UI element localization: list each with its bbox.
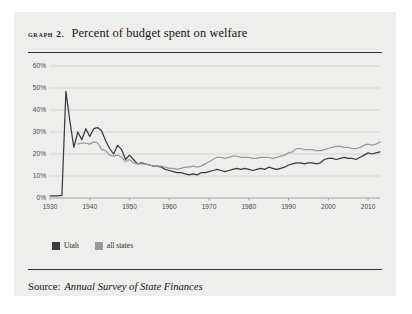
svg-text:1940: 1940 xyxy=(82,203,97,210)
source-note: Source: Annual Survey of State Finances xyxy=(28,276,203,294)
legend-item-all-states: all states xyxy=(95,241,133,250)
source-prefix-label: Source: xyxy=(28,281,60,292)
page-title: Percent of budget spent on welfare xyxy=(71,26,247,41)
title-divider xyxy=(28,52,382,53)
source-title-label: Annual Survey of State Finances xyxy=(64,281,202,292)
legend-swatch-all-states xyxy=(95,242,103,250)
svg-text:60%: 60% xyxy=(33,62,46,69)
chart-gridlines xyxy=(50,66,380,198)
source-divider xyxy=(28,269,382,270)
svg-text:2000: 2000 xyxy=(321,203,336,210)
chart-x-axis-labels: 193019401950196019701980199020002010 xyxy=(43,203,376,210)
figure-title-block: Graph 2. Percent of budget spent on welf… xyxy=(28,26,382,52)
legend-swatch-utah xyxy=(52,242,60,250)
svg-text:1990: 1990 xyxy=(281,203,296,210)
chart-plot-area: 0%10%20%30%40%50%60% 1930194019501960197… xyxy=(28,58,382,222)
svg-text:1970: 1970 xyxy=(202,203,217,210)
svg-text:50%: 50% xyxy=(33,84,46,91)
svg-text:1960: 1960 xyxy=(162,203,177,210)
svg-text:30%: 30% xyxy=(33,128,46,135)
svg-text:2010: 2010 xyxy=(361,203,376,210)
svg-text:1930: 1930 xyxy=(43,203,58,210)
legend-item-utah: Utah xyxy=(52,241,79,250)
legend-label-all-states: all states xyxy=(107,241,133,250)
line-chart-svg: 0%10%20%30%40%50%60% 1930194019501960197… xyxy=(28,58,382,222)
svg-text:10%: 10% xyxy=(33,172,46,179)
svg-text:0%: 0% xyxy=(36,194,46,201)
svg-text:20%: 20% xyxy=(33,150,46,157)
svg-text:1980: 1980 xyxy=(241,203,256,210)
figure-panel: Graph 2. Percent of budget spent on welf… xyxy=(14,12,396,296)
legend-label-utah: Utah xyxy=(64,241,79,250)
svg-text:40%: 40% xyxy=(33,106,46,113)
svg-text:1950: 1950 xyxy=(122,203,137,210)
figure-number-label: Graph 2. xyxy=(28,29,64,39)
chart-legend: Utah all states xyxy=(52,241,133,250)
chart-series-group xyxy=(50,91,380,196)
chart-y-axis-labels: 0%10%20%30%40%50%60% xyxy=(33,62,46,201)
